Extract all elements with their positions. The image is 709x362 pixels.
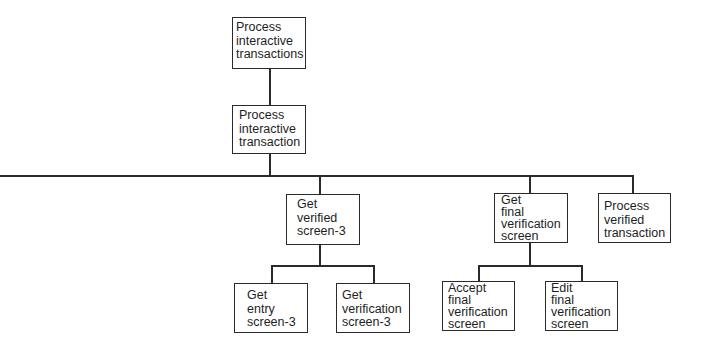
connector-root-to-level1 (269, 69, 271, 105)
structure-chart: Process interactive transactions Process… (0, 0, 709, 362)
connector-to-get-entry-screen (271, 265, 273, 283)
node-process-interactive-transaction: Process interactive transaction (232, 105, 306, 154)
connector-bus-to-process-verified-transaction (632, 175, 634, 193)
sub-bus-get-verified-screen (271, 265, 375, 267)
node-edit-final-verification-screen: Edit final verification screen (545, 281, 618, 331)
node-process-verified-transaction: Process verified transaction (598, 193, 671, 243)
node-get-verification-screen-3: Get verification screen-3 (336, 283, 410, 333)
connector-get-final-verification-screen-down (529, 242, 531, 265)
node-get-verified-screen-3: Get verified screen-3 (286, 194, 360, 245)
sub-bus-get-final-verification-screen (478, 265, 583, 267)
connector-level1-to-bus (269, 153, 271, 176)
connector-to-edit-final-verification-screen (581, 265, 583, 281)
connector-bus-to-get-verified-screen (319, 175, 321, 194)
main-bus-line (0, 175, 634, 177)
node-process-interactive-transactions: Process interactive transactions (232, 17, 306, 69)
connector-to-get-verification-screen (373, 265, 375, 283)
node-get-final-verification-screen: Get final verification screen (494, 193, 568, 243)
node-get-entry-screen-3: Get entry screen-3 (234, 283, 308, 333)
node-accept-final-verification-screen: Accept final verification screen (442, 281, 515, 331)
connector-to-accept-final-verification-screen (478, 265, 480, 281)
connector-get-verified-screen-down (319, 245, 321, 265)
connector-bus-to-get-final-verification-screen (529, 175, 531, 193)
